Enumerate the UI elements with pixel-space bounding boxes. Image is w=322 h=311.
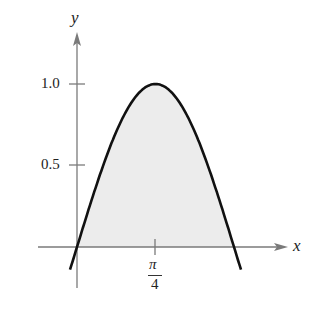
x-tick-label-pi-denominator: 4: [151, 276, 159, 293]
shaded-region: [77, 84, 234, 247]
x-tick-label-pi-numerator: π: [149, 256, 157, 273]
y-axis-label: y: [71, 8, 79, 28]
x-axis-label: x: [293, 236, 301, 256]
y-tick-label-05: 0.5: [41, 156, 60, 173]
chart: y x 1.0 0.5 π 4: [0, 0, 322, 311]
y-tick-label-1: 1.0: [41, 75, 60, 92]
